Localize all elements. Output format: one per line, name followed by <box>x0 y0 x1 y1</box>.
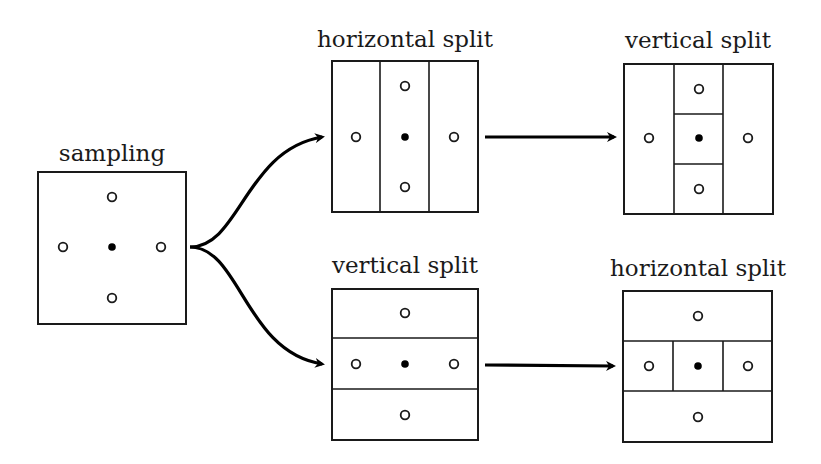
bottom-vertical-split-panel: vertical split <box>331 252 479 440</box>
neighbor-point-top <box>401 309 410 318</box>
neighbor-point-right <box>450 133 459 142</box>
neighbor-point-top <box>695 85 704 94</box>
center-point <box>694 362 702 370</box>
neighbor-point-right <box>450 360 459 369</box>
neighbor-point-top <box>401 82 410 91</box>
center-point <box>695 134 703 142</box>
sampling-panel: sampling <box>38 140 186 324</box>
neighbor-point-top <box>108 193 117 202</box>
arrow-bottom-step <box>485 365 613 366</box>
neighbor-point-left <box>352 360 361 369</box>
neighbor-point-left <box>59 243 68 252</box>
top-second-label: vertical split <box>624 27 772 53</box>
neighbor-point-left <box>645 134 654 143</box>
neighbor-point-right <box>744 362 753 371</box>
bottom-first-label: vertical split <box>331 252 479 278</box>
neighbor-point-right <box>744 134 753 143</box>
arrow-to-top-branch <box>190 137 322 247</box>
neighbor-point-bottom <box>108 294 117 303</box>
neighbor-point-right <box>157 243 166 252</box>
neighbor-point-bottom <box>401 183 410 192</box>
sampling-label: sampling <box>59 140 166 166</box>
arrow-to-bottom-branch <box>190 247 322 364</box>
neighbor-point-top <box>694 312 703 321</box>
center-point <box>401 360 409 368</box>
top-vertical-split-panel: vertical split <box>624 27 773 214</box>
neighbor-point-bottom <box>694 413 703 422</box>
center-point <box>108 243 116 251</box>
bottom-second-label: horizontal split <box>610 255 787 281</box>
bottom-horizontal-split-panel: horizontal split <box>610 255 787 442</box>
neighbor-point-left <box>352 133 361 142</box>
top-first-label: horizontal split <box>317 26 494 52</box>
neighbor-point-bottom <box>401 411 410 420</box>
neighbor-point-left <box>645 362 654 371</box>
split-diagram: sampling horizontal split vertical split <box>0 0 821 464</box>
neighbor-point-bottom <box>695 185 704 194</box>
center-point <box>401 133 409 141</box>
top-horizontal-split-panel: horizontal split <box>317 26 494 212</box>
